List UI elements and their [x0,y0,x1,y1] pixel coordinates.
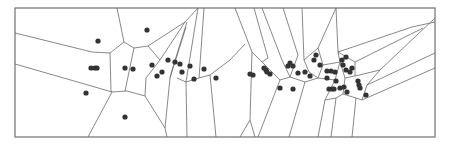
voronoi-site [122,114,127,119]
diagram-frame [15,8,435,137]
voronoi-site [331,86,336,91]
voronoi-site [172,59,177,64]
voronoi-site [295,70,300,75]
voronoi-site [267,71,272,76]
voronoi-site [290,63,295,68]
voronoi-site [201,66,206,71]
voronoi-site [122,65,127,70]
voronoi-site [250,72,255,77]
voronoi-site [333,78,338,83]
voronoi-site [340,62,345,67]
voronoi-site [344,89,349,94]
voronoi-site [159,69,164,74]
voronoi-site [277,85,282,90]
voronoi-site [311,57,316,62]
voronoi-diagram [0,0,449,145]
voronoi-site [317,62,322,67]
voronoi-site [332,69,337,74]
voronoi-site [302,69,307,74]
voronoi-site [324,75,329,80]
voronoi-site [191,76,196,81]
voronoi-site [349,65,354,70]
voronoi-site [95,38,100,43]
voronoi-site [343,54,348,59]
voronoi-site [187,63,192,68]
voronoi-site [179,69,184,74]
voronoi-site [290,86,295,91]
voronoi-site [177,61,182,66]
voronoi-site [363,92,368,97]
voronoi-site [130,66,135,71]
voronoi-site [154,73,159,78]
voronoi-site [94,65,99,70]
voronoi-site [144,27,149,32]
voronoi-site [83,90,88,95]
voronoi-site [165,57,170,62]
voronoi-site [313,52,318,57]
voronoi-site [213,75,218,80]
voronoi-site [357,85,362,90]
voronoi-site [337,85,342,90]
voronoi-site [307,73,312,78]
voronoi-site [149,62,154,67]
